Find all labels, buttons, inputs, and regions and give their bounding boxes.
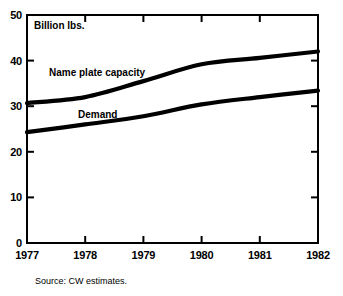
plot-frame xyxy=(27,15,318,243)
y-axis-tick-label-30: 30 xyxy=(0,101,22,112)
y-axis-unit-label: Billion lbs. xyxy=(34,21,85,31)
series-label-demand: Demand xyxy=(78,110,117,120)
source-note: Source: CW estimates. xyxy=(35,277,127,286)
x-axis-tick-label-1981: 1981 xyxy=(240,250,280,261)
x-axis-tick-label-1977: 1977 xyxy=(7,250,47,261)
y-axis-tick-label-40: 40 xyxy=(0,56,22,67)
y-axis-tick-label-50: 50 xyxy=(0,10,22,21)
chart-plot-area: 50 40 30 20 10 0 1977 1978 1979 1980 198… xyxy=(0,0,343,270)
chart-figure: 50 40 30 20 10 0 1977 1978 1979 1980 198… xyxy=(0,0,343,296)
series-label-name-plate-capacity: Name plate capacity xyxy=(49,68,145,78)
chart-axes-frame xyxy=(27,15,318,243)
line-chart-svg xyxy=(0,0,343,270)
y-axis-tick-label-20: 20 xyxy=(0,147,22,158)
x-axis-tick-label-1978: 1978 xyxy=(65,250,105,261)
x-axis-tick-label-1979: 1979 xyxy=(123,250,163,261)
x-axis-tick-label-1980: 1980 xyxy=(182,250,222,261)
y-axis-tick-label-10: 10 xyxy=(0,192,22,203)
y-axis-tick-label-0: 0 xyxy=(0,238,22,249)
x-axis-tick-label-1982: 1982 xyxy=(298,250,338,261)
